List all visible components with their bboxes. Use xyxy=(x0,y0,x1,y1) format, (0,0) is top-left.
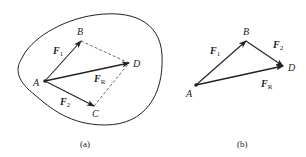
point-label-d: D xyxy=(132,58,141,69)
caption-a: (a) xyxy=(80,139,90,149)
vector-label-f1: F1 xyxy=(52,45,64,58)
force-diagram: B D A C F1 FR F2 (a) B D A F1 F2 FR (b) xyxy=(0,0,306,157)
point-label-b: B xyxy=(243,26,249,37)
point-a-dot xyxy=(43,79,47,83)
dashed-line-bd xyxy=(81,41,129,63)
vector-label-f1: F1 xyxy=(209,45,221,58)
point-label-d: D xyxy=(287,62,296,73)
vector-f1-arrow xyxy=(196,41,246,85)
point-label-a: A xyxy=(185,88,193,99)
point-label-b: B xyxy=(77,26,83,37)
caption-b: (b) xyxy=(237,139,248,149)
panel-b: B D A F1 F2 FR (b) xyxy=(185,26,296,149)
point-label-a: A xyxy=(32,77,40,88)
rigid-body-outline xyxy=(18,14,162,125)
panel-a: B D A C F1 FR F2 (a) xyxy=(18,14,162,149)
vector-label-fr: FR xyxy=(93,73,106,86)
point-label-c: C xyxy=(92,108,99,119)
vector-label-f2: F2 xyxy=(272,39,284,52)
point-a-dot xyxy=(194,83,198,87)
vector-label-f2: F2 xyxy=(59,96,71,109)
vector-label-fr: FR xyxy=(260,78,273,91)
